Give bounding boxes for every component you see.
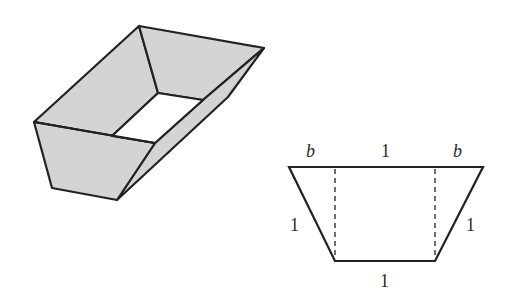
label-right-side: 1 bbox=[466, 215, 475, 235]
label-left-side: 1 bbox=[290, 215, 299, 235]
trapezoid-outline bbox=[289, 167, 483, 261]
trough-3d-drawing bbox=[34, 26, 264, 200]
label-top-right-b: b bbox=[453, 141, 462, 161]
figure-canvas: b 1 b 1 1 1 bbox=[0, 0, 517, 292]
cross-section-diagram: b 1 b 1 1 1 bbox=[289, 141, 483, 291]
label-top-left-b: b bbox=[306, 141, 315, 161]
label-bottom: 1 bbox=[380, 271, 389, 291]
label-top-middle: 1 bbox=[381, 141, 390, 161]
